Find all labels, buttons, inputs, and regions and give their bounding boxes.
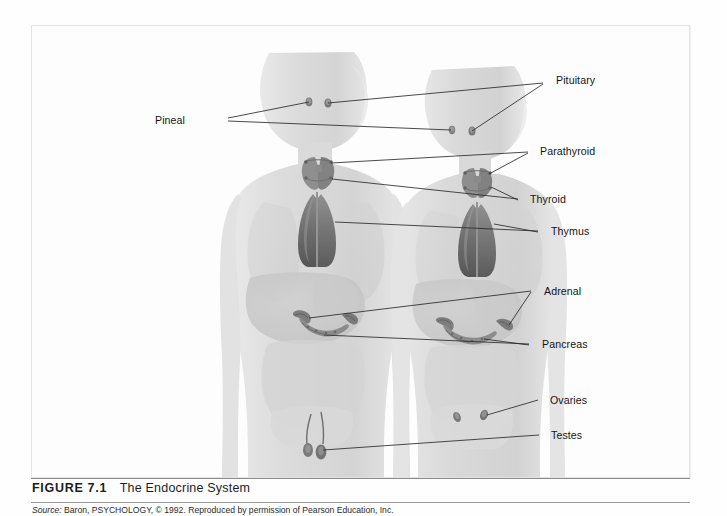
source-credit: Source: Baron, PSYCHOLOGY, © 1992. Repro… (32, 505, 394, 515)
figure-title: The Endocrine System (111, 481, 250, 495)
label-adrenal: Adrenal (544, 285, 581, 297)
figure-page: Pituitary Pineal Parathyroid Thyroid Thy… (0, 0, 727, 516)
female-head-silhouette (425, 66, 526, 160)
male-pelvis (271, 406, 353, 446)
label-thymus: Thymus (551, 225, 589, 237)
figure-frame: Pituitary Pineal Parathyroid Thyroid Thy… (31, 25, 690, 478)
figure-number: FIGURE 7.1 (32, 481, 107, 495)
label-pineal: Pineal (155, 114, 185, 126)
label-pancreas: Pancreas (542, 338, 588, 350)
label-ovaries: Ovaries (550, 394, 587, 406)
label-pituitary: Pituitary (556, 74, 595, 86)
caption-rule-bottom (31, 502, 690, 503)
female-figure (391, 66, 567, 477)
source-label: Source: (32, 505, 62, 515)
label-thyroid: Thyroid (530, 193, 566, 205)
endocrine-system-illustration (32, 26, 689, 477)
caption-rule-top (31, 478, 690, 479)
male-head-silhouette (260, 52, 367, 151)
caption-block: FIGURE 7.1 The Endocrine System Source: … (31, 478, 691, 516)
figure-caption: FIGURE 7.1 The Endocrine System (32, 481, 250, 495)
male-figure (220, 52, 412, 477)
label-testes: Testes (551, 429, 582, 441)
label-parathyroid: Parathyroid (540, 145, 595, 157)
source-text: Baron, PSYCHOLOGY, © 1992. Reproduced by… (64, 505, 394, 515)
